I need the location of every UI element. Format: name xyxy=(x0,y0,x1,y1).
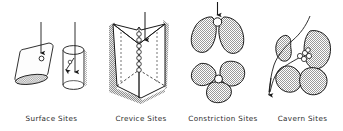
crevice-sites-artwork xyxy=(97,0,185,110)
panel-surface-sites: Surface Sites xyxy=(0,0,103,131)
grain-cluster-icon xyxy=(276,31,331,95)
cavern-sites-artwork xyxy=(262,0,343,110)
panel-cavern-sites: Cavern Sites xyxy=(262,0,343,131)
panel-label-cavern-sites: Cavern Sites xyxy=(262,114,343,123)
surface-sites-artwork xyxy=(0,0,103,110)
adsorbed-sphere-icon xyxy=(68,60,72,64)
adsorbed-sphere-icon xyxy=(39,56,44,61)
panel-crevice-sites: Crevice Sites xyxy=(97,0,185,131)
panel-label-surface-sites: Surface Sites xyxy=(0,114,103,123)
trapped-sphere-icon xyxy=(215,75,223,83)
panel-label-constriction-sites: Constriction Sites xyxy=(178,114,268,123)
trapped-sphere-icon xyxy=(213,18,221,26)
constriction-sites-artwork xyxy=(178,0,268,110)
panel-label-crevice-sites: Crevice Sites xyxy=(97,114,185,123)
tilted-cylinder-icon xyxy=(15,43,53,86)
sorption-sites-figure: Surface Sites xyxy=(0,0,343,131)
panel-constriction-sites: Constriction Sites xyxy=(178,0,268,131)
